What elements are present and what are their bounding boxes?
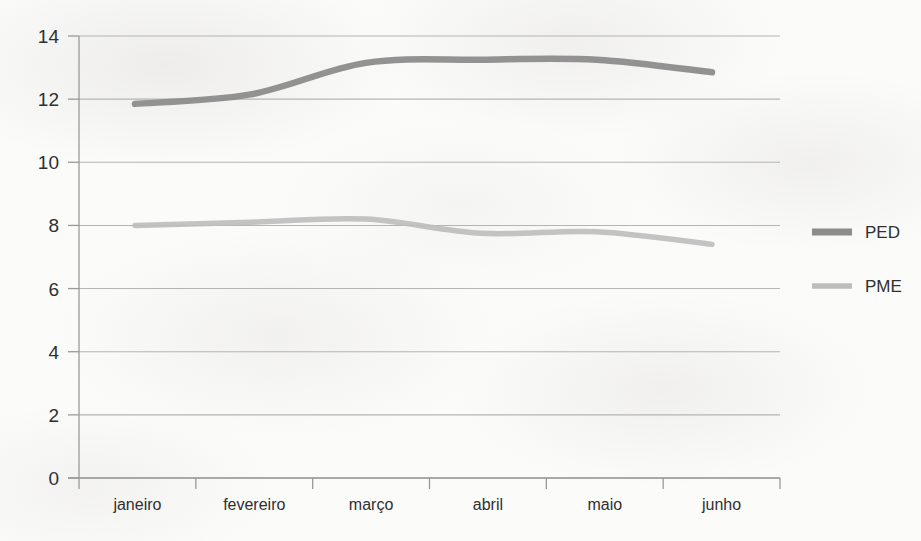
x-axis-category-label: fevereiro <box>223 496 285 513</box>
series-line-ped <box>135 59 712 104</box>
series-lines <box>135 59 712 245</box>
y-axis-tick-label: 10 <box>38 152 59 173</box>
chart-page: 02468101214 janeirofevereiromarçoabrilma… <box>0 0 921 541</box>
y-axis-tick-label: 8 <box>48 215 59 236</box>
y-axis-tick-label: 2 <box>48 405 59 426</box>
legend-label-ped: PED <box>865 223 900 242</box>
series-line-pme <box>135 219 712 245</box>
x-axis-category-label: junho <box>701 496 741 513</box>
y-axis-tick-label: 0 <box>48 468 59 489</box>
y-axis-tick-labels: 02468101214 <box>38 26 60 489</box>
x-axis-category-label: março <box>349 496 394 513</box>
x-axis-category-label: maio <box>587 496 622 513</box>
y-axis-tick-label: 14 <box>38 26 60 47</box>
y-axis-tick-label: 6 <box>48 279 59 300</box>
legend-label-pme: PME <box>865 277 902 296</box>
x-axis-ticks <box>79 478 780 489</box>
chart-legend: PEDPME <box>812 223 902 296</box>
x-axis-category-labels: janeirofevereiromarçoabrilmaiojunho <box>112 496 741 513</box>
y-axis-ticks <box>68 36 79 478</box>
y-axis-tick-label: 12 <box>38 89 59 110</box>
y-axis-tick-label: 4 <box>48 342 59 363</box>
line-chart: 02468101214 janeirofevereiromarçoabrilma… <box>0 0 921 541</box>
x-axis-category-label: abril <box>473 496 503 513</box>
x-axis-category-label: janeiro <box>112 496 161 513</box>
